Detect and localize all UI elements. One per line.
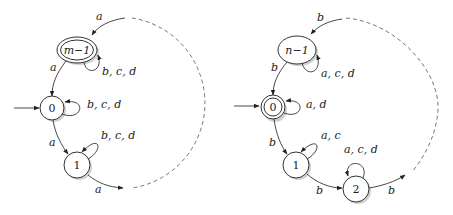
right-node-n-minus-1: n−1 [278, 36, 318, 66]
left-automaton: a m−1 b, c, d a 0 b, c, d a [14, 10, 205, 196]
right-label-0-to-1: b [269, 136, 276, 149]
right-automaton: b n−1 a, c, d b 0 a, d b [234, 11, 438, 204]
left-node-1-label: 1 [74, 159, 81, 172]
right-label-out-2: b [388, 184, 395, 197]
right-node-1: 1 [283, 152, 311, 180]
right-node-2: 2 [343, 176, 371, 204]
right-node-n1m-label: n−1 [285, 44, 308, 57]
left-node-0-label: 0 [49, 102, 56, 115]
left-label-m1-to-0: a [50, 61, 57, 74]
left-label-loop-1: b, c, d [101, 129, 135, 142]
right-label-in-n1m: b [317, 11, 324, 24]
left-label-0-to-1: a [49, 136, 56, 149]
automata-diagram: a m−1 b, c, d a 0 b, c, d a [0, 0, 453, 215]
right-node-1-label: 1 [293, 159, 300, 172]
left-node-0: 0 [40, 96, 66, 122]
right-label-n1m-to-0: b [271, 61, 278, 74]
left-node-m-minus-1: m−1 [57, 37, 99, 65]
left-label-in-m1: a [96, 10, 103, 23]
right-label-loop-n1m: a, c, d [321, 67, 355, 80]
left-label-out-1: a [95, 183, 102, 196]
left-node-1: 1 [64, 152, 92, 180]
right-edge-1-to-2 [307, 174, 342, 188]
left-label-loop-0: b, c, d [87, 98, 121, 111]
right-node-0-label: 0 [270, 101, 277, 114]
right-node-0: 0 [261, 95, 287, 122]
right-edge-out-2 [369, 175, 405, 188]
right-node-2-label: 2 [353, 183, 360, 196]
left-node-m1-label: m−1 [64, 44, 91, 57]
right-label-1-to-2: b [316, 184, 323, 197]
right-edge-into-n1m [311, 19, 342, 34]
left-label-loop-m1: b, c, d [102, 65, 136, 78]
right-label-loop-1: a, c [321, 129, 341, 142]
left-dashed-arc [132, 18, 205, 188]
right-label-loop-2: a, c, d [344, 143, 378, 156]
left-edge-out-1 [88, 175, 123, 188]
right-label-loop-0: a, d [306, 98, 327, 111]
